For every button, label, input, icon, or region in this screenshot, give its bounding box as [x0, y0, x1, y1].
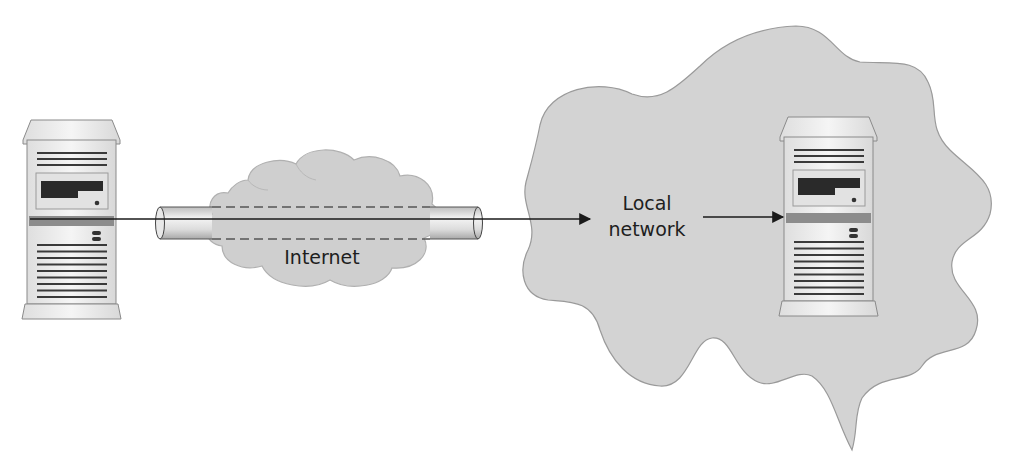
local-network-label-line2: network — [608, 218, 685, 240]
local-network-region — [523, 26, 991, 450]
internet-label: Internet — [284, 246, 359, 268]
local-network-label-line1: Local — [622, 192, 671, 214]
local-server-icon — [779, 117, 878, 316]
network-diagram: Internet Local network — [0, 0, 1009, 475]
